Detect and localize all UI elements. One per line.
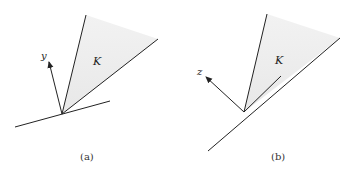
- cone-label-b: K: [274, 54, 284, 67]
- vector-z-arrow: [206, 77, 244, 112]
- panel-a: y K (a): [15, 15, 158, 162]
- supporting-line-a: [15, 101, 110, 127]
- cone-region-a: [62, 15, 158, 114]
- caption-b: (b): [271, 151, 285, 162]
- panel-b: z K (b): [196, 14, 340, 162]
- vector-label-z: z: [196, 66, 203, 77]
- cone-diagram: y K (a) z K (b): [0, 0, 349, 173]
- vector-y-arrow: [49, 62, 62, 114]
- caption-a: (a): [80, 151, 94, 162]
- cone-label-a: K: [92, 55, 102, 68]
- vector-label-y: y: [40, 50, 47, 61]
